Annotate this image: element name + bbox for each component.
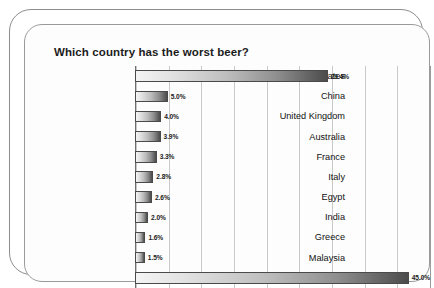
bar-track: 4.0%	[135, 106, 430, 126]
bar-value-label: 5.0%	[171, 93, 186, 100]
bar-value-label: 3.3%	[160, 153, 175, 160]
bar[interactable]	[135, 131, 161, 143]
bar-value-label: 45.0%	[412, 274, 430, 281]
bar-row: Malaysia1.5%	[45, 248, 434, 268]
bar-row: France3.3%	[45, 147, 434, 167]
bar[interactable]	[135, 70, 328, 82]
bar-track: 1.5%	[135, 248, 430, 268]
bar[interactable]	[135, 111, 161, 123]
bar-value-label: 3.9%	[164, 133, 179, 140]
bar-row: India2.0%	[45, 207, 434, 227]
bar-row: United States29.4%	[45, 66, 434, 86]
bar[interactable]	[135, 252, 145, 264]
bar-row: Italy2.8%	[45, 167, 434, 187]
bar-track: 3.3%	[135, 147, 430, 167]
bar[interactable]	[135, 191, 152, 203]
chart-title: Which country has the worst beer?	[54, 46, 249, 58]
bar-row: Greece1.6%	[45, 227, 434, 247]
bar-value-label: 1.6%	[148, 234, 163, 241]
chart-outer-border: Which country has the worst beer? United…	[9, 9, 423, 275]
bar[interactable]	[135, 91, 168, 103]
bar-value-label: 2.8%	[156, 173, 171, 180]
bar[interactable]	[135, 232, 145, 244]
bar-value-label: 29.4%	[331, 73, 349, 80]
bar[interactable]	[135, 272, 409, 284]
chart-panel: Which country has the worst beer? United…	[45, 44, 434, 288]
bar[interactable]	[135, 151, 157, 163]
bar-track: 29.4%	[135, 66, 430, 86]
bar-row: China5.0%	[45, 86, 434, 106]
bar-value-label: 4.0%	[164, 113, 179, 120]
bar-track: 5.0%	[135, 86, 430, 106]
bar-value-label: 1.5%	[148, 254, 163, 261]
bar-track: 1.6%	[135, 227, 430, 247]
bar-rows: United States29.4%China5.0%United Kingdo…	[45, 66, 434, 288]
bar-track: 2.8%	[135, 167, 430, 187]
bar-track: 2.6%	[135, 187, 430, 207]
bar-track: 2.0%	[135, 207, 430, 227]
bar-row: Other45.0%	[45, 268, 434, 288]
bar-value-label: 2.6%	[155, 194, 170, 201]
bar[interactable]	[135, 171, 153, 183]
bar-row: Australia3.9%	[45, 127, 434, 147]
plot-area: United States29.4%China5.0%United Kingdo…	[45, 66, 434, 288]
bar-value-label: 2.0%	[151, 214, 166, 221]
bar-row: Egypt2.6%	[45, 187, 434, 207]
bar-track: 45.0%	[135, 268, 430, 288]
chart-inner-border: Which country has the worst beer? United…	[24, 24, 430, 282]
bar[interactable]	[135, 212, 148, 224]
bar-track: 3.9%	[135, 127, 430, 147]
bar-row: United Kingdom4.0%	[45, 106, 434, 126]
